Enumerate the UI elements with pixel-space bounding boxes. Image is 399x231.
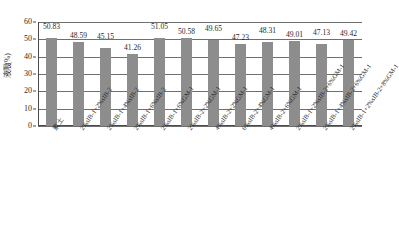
bar <box>208 40 219 126</box>
y-axis-tick-mark <box>33 39 36 40</box>
bar-value-label: 48.59 <box>70 32 87 40</box>
y-axis-tick-mark <box>33 108 36 109</box>
bar <box>181 38 192 126</box>
bar <box>154 38 165 126</box>
y-axis-tick-label: 10 <box>24 105 32 113</box>
y-axis-tick-mark <box>33 126 36 127</box>
y-axis-title: 液限(%) <box>4 40 12 92</box>
y-axis-tick-label: 30 <box>24 70 32 78</box>
bar <box>46 38 57 126</box>
bar <box>262 42 273 126</box>
y-axis-tick-label: 40 <box>24 53 32 61</box>
bar <box>73 42 84 126</box>
y-axis-tick-mark <box>33 22 36 23</box>
bar-value-label: 41.26 <box>124 44 141 52</box>
y-axis-tick-label: 0 <box>28 122 32 130</box>
x-axis-tick-labels: 素土2%sIB-1+2%sIB-22%sIB-1+4%sIB-22%sIB-1+… <box>38 126 362 231</box>
bar-value-label: 50.83 <box>43 23 60 31</box>
bar-value-label: 49.65 <box>205 25 222 33</box>
bar-value-label: 45.15 <box>97 33 114 41</box>
bar-slot: 50.83 <box>38 22 65 126</box>
bar-value-label: 48.31 <box>259 27 276 35</box>
bar-value-label: 47.23 <box>232 34 249 42</box>
y-axis-tick-label: 20 <box>24 87 32 95</box>
bar-slot: 48.59 <box>65 22 92 126</box>
bar-value-label: 47.13 <box>313 29 330 37</box>
y-axis-tick-mark <box>33 74 36 75</box>
bar-value-label: 50.58 <box>178 28 195 36</box>
bar-value-label: 49.42 <box>340 30 357 38</box>
bar-value-label: 49.01 <box>286 31 303 39</box>
bar <box>289 41 300 126</box>
y-axis-tick-mark <box>33 91 36 92</box>
y-axis-tick-mark <box>33 56 36 57</box>
y-axis-tick-label: 60 <box>24 18 32 26</box>
y-axis-tick-label: 50 <box>24 35 32 43</box>
y-axis-tick-labels: 6050403020100 <box>16 22 36 126</box>
bar-value-label: 51.05 <box>151 23 168 31</box>
